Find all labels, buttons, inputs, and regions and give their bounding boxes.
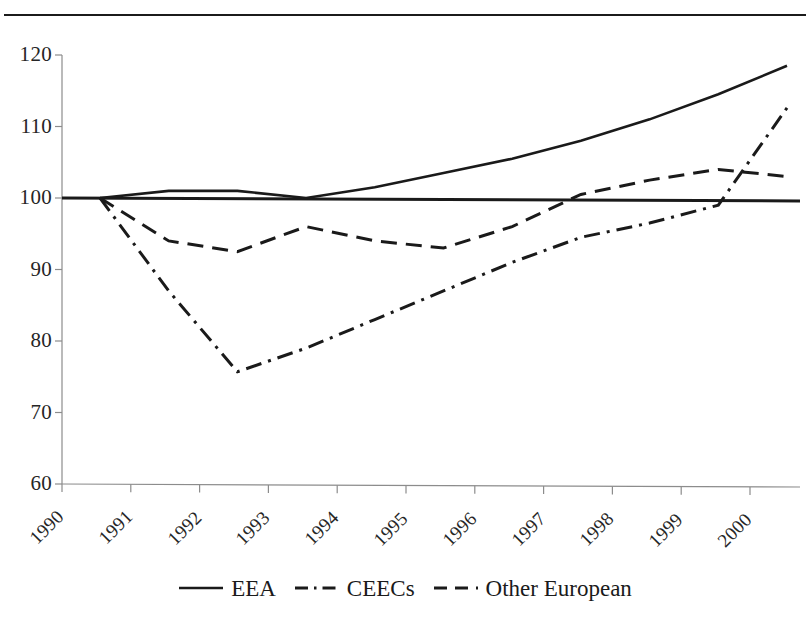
legend-item-eea[interactable]: EEA [178,577,276,600]
figure-container: 60708090100110120 1990199119921993199419… [0,0,810,620]
legend-label: Other European [486,577,632,600]
y-axis-tick-label: 70 [0,402,52,423]
legend-item-ceecs[interactable]: CEECs [294,577,415,600]
x-axis-line [62,484,800,487]
legend-label: EEA [231,577,276,600]
solid-line-key [178,581,224,595]
y-axis-tick-label: 110 [0,116,52,137]
data-series-group [100,66,787,372]
line-chart-svg [0,0,810,560]
y-axis-tick-label: 80 [0,330,52,351]
series-line-other-european [100,169,787,251]
y-axis-tick-label: 60 [0,473,52,494]
dashed-line-key [433,581,479,595]
reference-line-100 [62,198,800,201]
series-line-eea [100,66,787,198]
legend-label: CEECs [347,577,415,600]
chart-plot-area: 60708090100110120 1990199119921993199419… [0,0,810,560]
chart-legend: EEACEECsOther European [0,566,810,610]
dash-dot-line-key [294,581,340,595]
legend-item-other-european[interactable]: Other European [433,577,632,600]
y-axis-tick-label: 90 [0,259,52,280]
reference-line-100 [62,198,800,201]
axes-group [55,55,800,495]
y-axis-tick-label: 100 [0,187,52,208]
y-axis-tick-label: 120 [0,44,52,65]
series-line-ceecs [100,108,787,372]
